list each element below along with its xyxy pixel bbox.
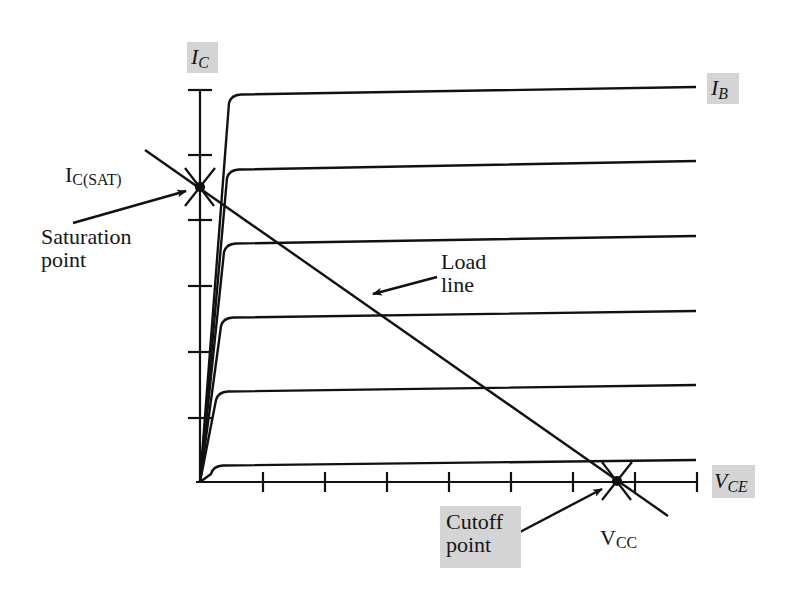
cutoff-label-line1: Cutoff xyxy=(446,510,503,533)
ib-curve xyxy=(200,385,696,482)
load-line-label-line2: line xyxy=(441,273,486,296)
load-line xyxy=(145,150,668,516)
load-line-diagram xyxy=(0,0,792,595)
curves-label-sub: B xyxy=(718,85,728,102)
cutoff-point-dot xyxy=(613,477,621,485)
saturation-label-line2: point xyxy=(41,248,131,271)
y-axis-label-sub: C xyxy=(198,54,209,71)
saturation-point-label: Saturation point xyxy=(41,225,131,271)
saturation-point-dot xyxy=(196,183,204,191)
load-line-label-line1: Load xyxy=(441,250,486,273)
load-line-arrow xyxy=(373,277,437,294)
cutoff-label-line2: point xyxy=(446,533,503,556)
ib-curve xyxy=(200,161,696,482)
curves-label: IB xyxy=(711,76,728,103)
saturation-value-sub: C(SAT) xyxy=(72,171,121,188)
saturation-arrow xyxy=(73,191,186,223)
cutoff-arrow xyxy=(520,489,602,532)
y-axis-label: IC xyxy=(191,45,209,72)
cutoff-value-main: V xyxy=(600,525,616,550)
saturation-value-label: IC(SAT) xyxy=(65,163,122,189)
ib-curve xyxy=(200,311,696,482)
cutoff-value-sub: CC xyxy=(616,534,637,551)
cutoff-point-label: Cutoff point xyxy=(446,510,503,556)
x-axis-label-main: V xyxy=(714,468,727,493)
load-line-segment xyxy=(145,150,668,516)
cutoff-value-label: VCC xyxy=(600,526,637,552)
x-axis-label-sub: CE xyxy=(727,478,747,495)
load-line-label: Load line xyxy=(441,250,486,296)
x-axis-label: VCE xyxy=(714,469,748,496)
saturation-label-line1: Saturation xyxy=(41,225,131,248)
